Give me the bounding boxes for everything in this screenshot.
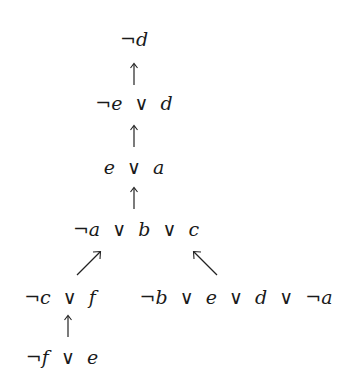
node-not-f-or-e: ¬f ∨ e [26,346,98,368]
arrow-up-icon [62,314,74,338]
node-not-b-or-e-or-d-or-not-a: ¬b ∨ e ∨ d ∨ ¬a [140,286,333,308]
node-not-e-or-d: ¬e ∨ d [95,92,172,114]
arrow-up-icon [128,186,140,210]
node-not-c-or-f: ¬c ∨ f [24,286,96,308]
node-not-a-or-b-or-c: ¬a ∨ b ∨ c [73,218,199,240]
arrow-up-icon [128,124,140,148]
arrow-diag-left-icon [190,249,220,277]
node-e-or-a: e ∨ a [104,156,165,178]
node-not-d: ¬d [120,28,148,50]
arrow-diag-right-icon [74,249,104,277]
arrow-up-icon [128,62,140,86]
